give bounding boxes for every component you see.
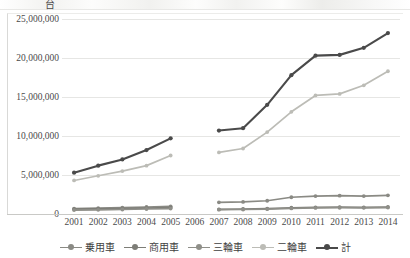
- data-point: [386, 69, 390, 73]
- data-point: [265, 199, 269, 203]
- data-point: [241, 147, 245, 151]
- data-point: [96, 208, 100, 212]
- legend-item-商用車[interactable]: 商用車: [124, 242, 179, 253]
- legend-marker-icon: [124, 243, 146, 252]
- data-point: [314, 194, 318, 198]
- series-計: [72, 31, 390, 175]
- data-point: [217, 208, 221, 212]
- plot-area: [62, 19, 400, 214]
- legend-label: 計: [341, 242, 351, 253]
- x-axis-tick: 2006: [185, 216, 204, 228]
- series-line: [219, 71, 388, 152]
- data-point: [217, 200, 221, 204]
- y-axis-tick: 15,000,000: [16, 92, 59, 102]
- y-axis-tick: 20,000,000: [16, 53, 59, 63]
- data-point: [386, 206, 390, 210]
- data-point: [241, 200, 245, 204]
- data-point: [96, 164, 100, 168]
- data-point: [314, 206, 318, 210]
- data-point: [169, 154, 173, 158]
- data-point: [265, 130, 269, 134]
- y-axis-tick: 5,000,000: [21, 170, 59, 180]
- legend-label: 乗用車: [85, 242, 115, 253]
- data-point: [338, 194, 342, 198]
- y-axis-tick-labels: 05,000,00010,000,00015,000,00020,000,000…: [0, 19, 59, 214]
- legend-item-三輪車[interactable]: 三輪車: [188, 242, 243, 253]
- legend-item-計[interactable]: 計: [316, 242, 351, 253]
- legend-marker-icon: [316, 243, 338, 252]
- data-point: [338, 206, 342, 210]
- data-point: [386, 31, 390, 35]
- y-axis-unit-label: 台: [45, 0, 55, 10]
- x-axis-line: [7, 214, 403, 215]
- data-point: [362, 83, 366, 87]
- data-point: [72, 171, 76, 175]
- data-point: [313, 54, 317, 58]
- data-point: [217, 150, 221, 154]
- data-point: [289, 110, 293, 114]
- data-point: [217, 128, 221, 132]
- x-axis-tick: 2009: [258, 216, 277, 228]
- data-point: [338, 53, 342, 57]
- x-axis-tick: 2013: [354, 216, 373, 228]
- data-point: [241, 208, 245, 212]
- data-point: [265, 207, 269, 211]
- y-axis-tick: 25,000,000: [16, 14, 59, 24]
- scan-artifact-strip: [0, 0, 410, 9]
- data-point: [96, 174, 100, 178]
- data-point: [289, 73, 293, 77]
- data-point: [362, 206, 366, 210]
- data-point: [169, 207, 173, 211]
- legend-label: 商用車: [149, 242, 179, 253]
- scan-artifact-line: [0, 9, 410, 10]
- data-point: [169, 136, 173, 140]
- data-point: [145, 164, 149, 168]
- data-point: [72, 179, 76, 183]
- legend-label: 二輪車: [277, 242, 307, 253]
- x-axis-tick: 2011: [306, 216, 325, 228]
- data-point: [265, 103, 269, 107]
- data-point: [362, 46, 366, 50]
- x-axis-tick: 2008: [234, 216, 253, 228]
- x-axis-tick: 2007: [209, 216, 228, 228]
- legend-marker-icon: [188, 243, 210, 252]
- legend-item-二輪車[interactable]: 二輪車: [252, 242, 307, 253]
- y-axis-tick: 10,000,000: [16, 131, 59, 141]
- series-layer: [62, 19, 400, 214]
- data-point: [72, 208, 76, 212]
- data-point: [338, 92, 342, 96]
- x-axis-tick: 2014: [378, 216, 397, 228]
- legend-marker-icon: [252, 243, 274, 252]
- x-axis-tick: 2004: [137, 216, 156, 228]
- data-point: [314, 94, 318, 98]
- legend-label: 三輪車: [213, 242, 243, 253]
- data-point: [120, 157, 124, 161]
- x-axis-tick-labels: 2001200220032004200520062007200820092010…: [62, 216, 400, 230]
- data-point: [144, 148, 148, 152]
- x-axis-tick: 2012: [330, 216, 349, 228]
- legend-marker-icon: [60, 243, 82, 252]
- data-point: [120, 169, 124, 173]
- x-axis-tick: 2002: [89, 216, 108, 228]
- data-point: [145, 207, 149, 211]
- data-point: [386, 193, 390, 197]
- data-point: [241, 126, 245, 130]
- x-axis-tick: 2010: [282, 216, 301, 228]
- legend-item-乗用車[interactable]: 乗用車: [60, 242, 115, 253]
- series-line: [74, 138, 171, 172]
- data-point: [120, 208, 124, 212]
- x-axis-tick: 2005: [161, 216, 180, 228]
- line-chart: 台 05,000,00010,000,00015,000,00020,000,0…: [0, 0, 410, 258]
- data-point: [289, 206, 293, 210]
- data-point: [362, 194, 366, 198]
- data-point: [289, 195, 293, 199]
- series-二輪車: [72, 69, 390, 182]
- x-axis-tick: 2003: [113, 216, 132, 228]
- x-axis-tick: 2001: [65, 216, 84, 228]
- chart-legend: 乗用車商用車三輪車二輪車計: [0, 238, 410, 256]
